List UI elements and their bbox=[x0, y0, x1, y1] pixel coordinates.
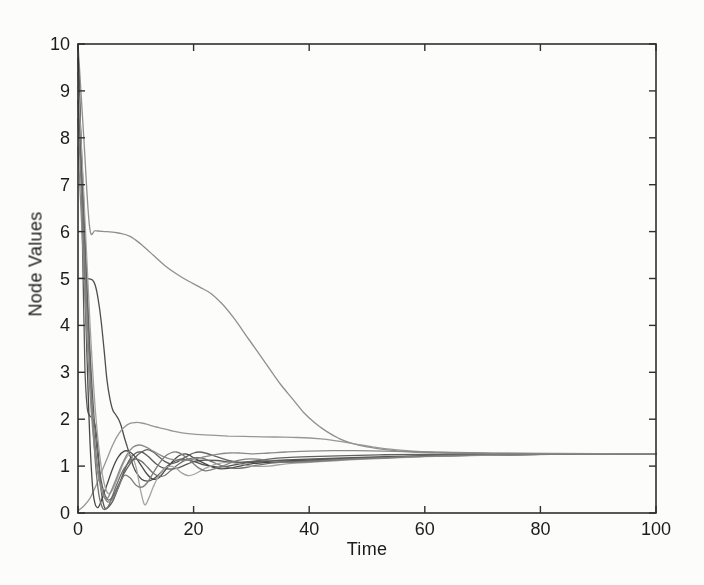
y-tick-label: 4 bbox=[60, 315, 70, 335]
series-node-9 bbox=[78, 119, 656, 502]
figure: 020406080100012345678910 Time Node Value… bbox=[0, 0, 704, 585]
x-tick-label: 60 bbox=[415, 519, 435, 539]
y-tick-label: 10 bbox=[50, 34, 70, 54]
y-tick-label: 1 bbox=[60, 456, 70, 476]
series-node-4 bbox=[78, 49, 656, 509]
series-node-8 bbox=[78, 100, 656, 500]
x-tick-label: 80 bbox=[530, 519, 550, 539]
series-node-3 bbox=[78, 422, 656, 510]
y-tick-label: 2 bbox=[60, 409, 70, 429]
series-node-7 bbox=[78, 86, 656, 505]
y-tick-label: 6 bbox=[60, 222, 70, 242]
y-tick-label: 8 bbox=[60, 128, 70, 148]
series-node-5 bbox=[78, 58, 656, 507]
x-axis-title: Time bbox=[78, 539, 656, 560]
y-tick-label: 0 bbox=[60, 503, 70, 523]
x-tick-label: 40 bbox=[299, 519, 319, 539]
x-tick-label: 0 bbox=[73, 519, 83, 539]
chart-canvas: 020406080100012345678910 bbox=[0, 0, 704, 585]
y-tick-label: 9 bbox=[60, 81, 70, 101]
series-node-1 bbox=[78, 44, 656, 454]
y-axis-title: Node Values bbox=[26, 211, 47, 316]
y-tick-label: 3 bbox=[60, 362, 70, 382]
y-tick-label: 5 bbox=[60, 269, 70, 289]
y-tick-label: 7 bbox=[60, 175, 70, 195]
plot-frame bbox=[78, 44, 656, 513]
series-node-6 bbox=[78, 72, 656, 509]
x-tick-label: 20 bbox=[184, 519, 204, 539]
x-tick-label: 100 bbox=[641, 519, 671, 539]
